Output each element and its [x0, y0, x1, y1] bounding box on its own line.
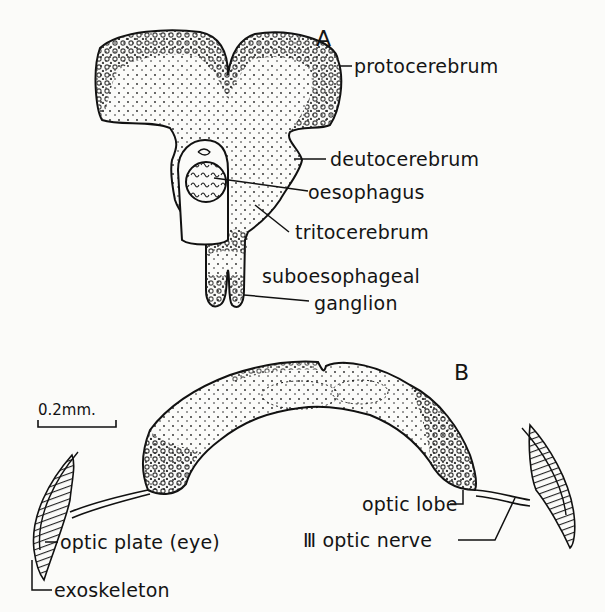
- panel-b-brain: [32, 362, 575, 590]
- label-ganglion: ganglion: [314, 293, 398, 313]
- brain-diagram: [0, 0, 605, 612]
- scale-bar-label: 0.2mm.: [38, 402, 96, 418]
- label-deutocerebrum: deutocerebrum: [330, 149, 479, 169]
- label-exoskeleton: exoskeleton: [54, 580, 170, 600]
- label-optic-nerve: Ⅲ optic nerve: [303, 530, 432, 550]
- label-suboesophageal: suboesophageal: [262, 266, 420, 286]
- label-optic-lobe: optic lobe: [362, 494, 458, 514]
- label-optic-plate: optic plate (eye): [60, 532, 220, 552]
- label-oesophagus: oesophagus: [308, 182, 425, 202]
- label-protocerebrum: protocerebrum: [354, 56, 498, 76]
- label-tritocerebrum: tritocerebrum: [295, 222, 429, 242]
- panel-label-a: A: [316, 28, 331, 50]
- panel-label-b: B: [454, 362, 469, 384]
